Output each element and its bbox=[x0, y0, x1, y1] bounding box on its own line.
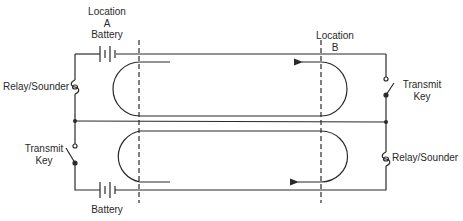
key-right-line2: Key bbox=[396, 91, 448, 103]
battery-bottom-label: Battery bbox=[82, 204, 132, 216]
location-b-line2: B bbox=[310, 42, 360, 54]
location-b-label: Location B bbox=[310, 30, 360, 54]
lower-current-loop-arrow bbox=[118, 131, 347, 182]
left-station-wire bbox=[75, 54, 100, 190]
relay-sounder-right-label: Relay/Sounder bbox=[392, 152, 458, 164]
transmit-key-left-label: Transmit Key bbox=[20, 143, 68, 167]
key-right-line1: Transmit bbox=[396, 79, 448, 91]
battery-top-label: Battery bbox=[82, 29, 132, 41]
relay-coil-left-icon bbox=[71, 80, 79, 94]
circuit-drawing bbox=[0, 0, 463, 221]
junction-left bbox=[73, 119, 77, 123]
location-a-line1: Location bbox=[82, 6, 132, 18]
middle-return-wire bbox=[75, 121, 386, 122]
battery-bottom-icon bbox=[100, 182, 115, 198]
key-pivot-right bbox=[384, 93, 388, 97]
location-b-line1: Location bbox=[310, 30, 360, 42]
key-left-line2: Key bbox=[20, 155, 68, 167]
relay-sounder-left-label: Relay/Sounder bbox=[3, 81, 69, 93]
junction-right bbox=[384, 120, 388, 124]
key-pivot-left bbox=[73, 161, 77, 165]
upper-current-loop-arrow bbox=[113, 62, 347, 116]
transmit-key-right-label: Transmit Key bbox=[396, 79, 448, 103]
transmit-key-right-icon bbox=[384, 77, 394, 95]
relay-coil-right-icon bbox=[382, 152, 390, 166]
bottom-line-wire bbox=[115, 166, 386, 190]
battery-top-icon bbox=[100, 46, 115, 62]
telegraph-duplex-circuit-diagram: Location A Battery Location B Relay/Soun… bbox=[0, 0, 463, 221]
key-left-line1: Transmit bbox=[20, 143, 68, 155]
location-a-label: Location A bbox=[82, 6, 132, 30]
